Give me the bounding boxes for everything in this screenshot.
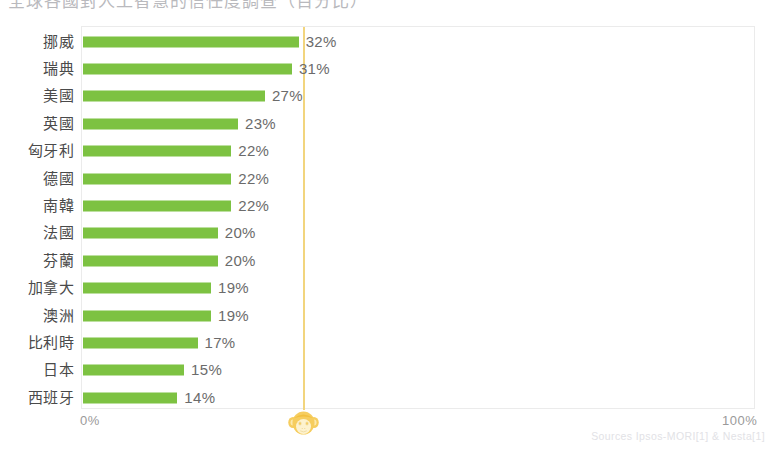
source-note: Sources Ipsos-MORI[1] & Nesta[1] [0, 430, 765, 442]
bar-row: 德國22% [0, 165, 775, 192]
bar-row: 澳洲19% [0, 302, 775, 329]
bar [83, 365, 184, 376]
bar-value-label: 20% [225, 252, 256, 270]
bar-row: 美國27% [0, 83, 775, 110]
bar-row: 南韓22% [0, 192, 775, 219]
bar-row: 西班牙14% [0, 384, 775, 411]
axis-tick-min: 0% [80, 413, 100, 428]
bar [83, 173, 231, 184]
bar-category-label: 匈牙利 [0, 142, 74, 160]
bar-chart: 挪威32%瑞典31%美國27%英國23%匈牙利22%德國22%南韓22%法國20… [0, 0, 775, 462]
bar [83, 310, 211, 321]
bar-row: 挪威32% [0, 28, 775, 55]
bar-value-label: 20% [225, 224, 256, 242]
bar [83, 36, 299, 47]
bar-value-label: 14% [184, 389, 215, 407]
bar-category-label: 加拿大 [0, 279, 74, 297]
bar-value-label: 22% [238, 170, 269, 188]
bar-row: 英國23% [0, 110, 775, 137]
bar-category-label: 日本 [0, 361, 74, 379]
bar [83, 201, 231, 212]
bar [83, 228, 218, 239]
bar [83, 146, 231, 157]
bar-value-label: 22% [238, 197, 269, 215]
bar [83, 64, 292, 75]
bar [83, 392, 177, 403]
bar-value-label: 19% [218, 279, 249, 297]
bar-category-label: 西班牙 [0, 389, 74, 407]
bar-value-label: 31% [299, 60, 330, 78]
bar-category-label: 澳洲 [0, 307, 74, 325]
axis-tick-max: 100% [722, 413, 757, 428]
bar-value-label: 19% [218, 307, 249, 325]
bar-category-label: 瑞典 [0, 60, 74, 78]
bar-value-label: 17% [205, 334, 236, 352]
bar-row: 比利時17% [0, 329, 775, 356]
bar-row: 法國20% [0, 220, 775, 247]
bar-category-label: 芬蘭 [0, 252, 74, 270]
bar [83, 338, 198, 349]
bar-category-label: 挪威 [0, 33, 74, 51]
bar-category-label: 比利時 [0, 334, 74, 352]
bar-row: 加拿大19% [0, 275, 775, 302]
bar-value-label: 22% [238, 142, 269, 160]
bar-row: 瑞典31% [0, 55, 775, 82]
bar-value-label: 23% [245, 115, 276, 133]
bar-row: 日本15% [0, 357, 775, 384]
bar [83, 118, 238, 129]
bar-category-label: 德國 [0, 170, 74, 188]
bar-category-label: 英國 [0, 115, 74, 133]
bar-value-label: 27% [272, 87, 303, 105]
bar-category-label: 美國 [0, 87, 74, 105]
bar [83, 283, 211, 294]
bar-value-label: 32% [306, 33, 337, 51]
bar [83, 255, 218, 266]
bar-row: 匈牙利22% [0, 138, 775, 165]
bar-value-label: 15% [191, 361, 222, 379]
bar [83, 91, 265, 102]
bar-row: 芬蘭20% [0, 247, 775, 274]
bar-category-label: 南韓 [0, 197, 74, 215]
bar-category-label: 法國 [0, 224, 74, 242]
